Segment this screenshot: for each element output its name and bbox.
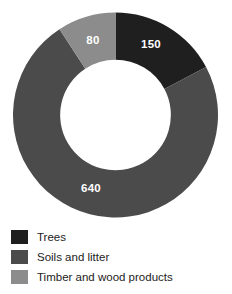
donut-chart-figure: 15064080 Trees Soils and litter Timber a… [0, 0, 232, 294]
legend-swatch-icon-soils-and-litter [11, 250, 28, 264]
donut-slice-value-2: 80 [86, 34, 99, 46]
legend-item-trees[interactable]: Trees [11, 227, 229, 247]
donut-svg: 15064080 [0, 0, 232, 222]
donut-plot-area: 15064080 [0, 0, 232, 222]
donut-slice-value-0: 150 [141, 38, 161, 50]
legend-item-soils-and-litter[interactable]: Soils and litter [11, 247, 229, 267]
legend-label-soils-and-litter: Soils and litter [37, 250, 109, 264]
legend-swatch-icon-trees [11, 230, 28, 244]
legend-label-timber-and-wood-products: Timber and wood products [37, 270, 173, 284]
legend-label-trees: Trees [37, 230, 66, 244]
legend-item-timber-and-wood-products[interactable]: Timber and wood products [11, 267, 229, 287]
donut-slice-group [13, 13, 218, 218]
chart-legend: Trees Soils and litter Timber and wood p… [11, 227, 229, 287]
legend-swatch-icon-timber-and-wood-products [11, 270, 28, 284]
donut-slice-value-1: 640 [81, 182, 101, 194]
